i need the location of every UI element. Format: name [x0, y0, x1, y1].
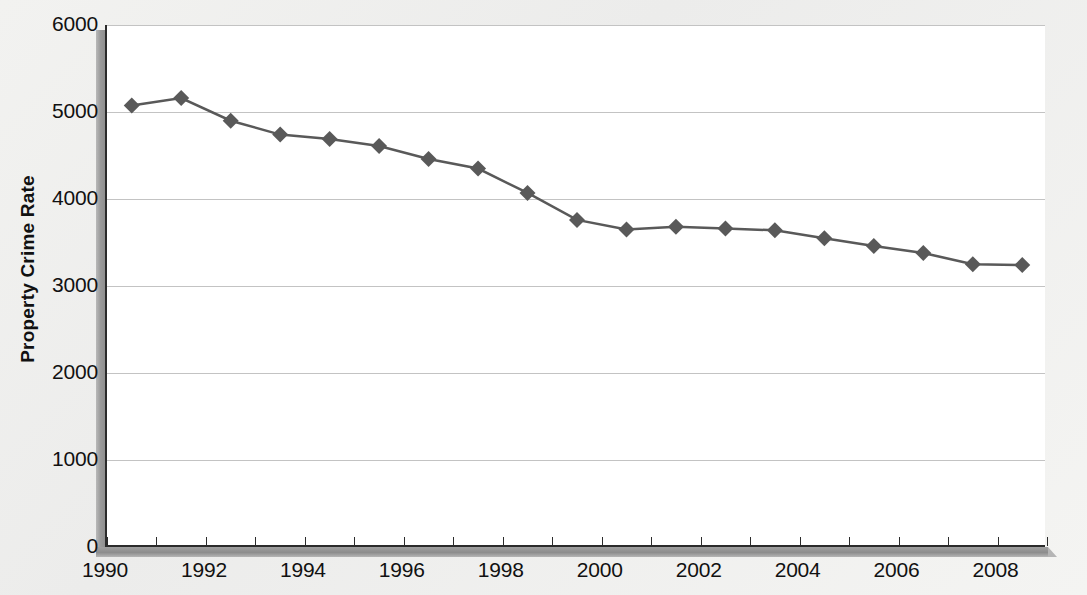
- data-point-marker: [767, 222, 783, 238]
- data-point-marker: [421, 151, 437, 167]
- x-axis-tick-label: 2000: [577, 558, 623, 582]
- series-line-chart: [107, 25, 1047, 547]
- y-axis-tick-label: 0: [24, 534, 98, 558]
- x-axis-tick-labels: 1990199219941996199820002002200420062008: [105, 558, 1045, 592]
- data-point-marker: [569, 212, 585, 228]
- y-axis-title: Property Crime Rate: [17, 159, 39, 379]
- plot-area: [105, 25, 1045, 547]
- data-point-marker: [668, 219, 684, 235]
- data-point-marker: [322, 131, 338, 147]
- data-point-marker: [470, 161, 486, 177]
- data-point-marker: [173, 90, 189, 106]
- x-axis-tick-label: 2008: [973, 558, 1019, 582]
- data-point-marker: [272, 127, 288, 143]
- data-point-marker: [816, 230, 832, 246]
- data-point-marker: [965, 256, 981, 272]
- y-axis-tick-label: 6000: [24, 12, 98, 36]
- x-axis-tick-label: 1998: [478, 558, 524, 582]
- data-point-marker: [717, 221, 733, 237]
- x-axis-tick-label: 2006: [874, 558, 920, 582]
- x-axis-tick: [1047, 537, 1048, 546]
- x-axis-tick-label: 2002: [676, 558, 722, 582]
- x-axis-tick-label: 1994: [280, 558, 326, 582]
- y-axis-tick-label: 1000: [24, 447, 98, 471]
- y-axis-tick-label: 5000: [24, 99, 98, 123]
- x-axis-tick-label: 1992: [181, 558, 227, 582]
- series-markers: [124, 90, 1031, 273]
- axis-3d-shadow-bottom: [96, 547, 1048, 557]
- data-point-marker: [124, 97, 140, 113]
- series-line: [132, 98, 1023, 265]
- data-point-marker: [915, 245, 931, 261]
- data-point-marker: [1014, 257, 1030, 273]
- data-point-marker: [371, 138, 387, 154]
- data-point-marker: [520, 185, 536, 201]
- data-point-marker: [618, 221, 634, 237]
- x-axis-tick-label: 2004: [775, 558, 821, 582]
- chart-page: 0100020003000400050006000 Property Crime…: [0, 0, 1087, 595]
- data-point-marker: [223, 113, 239, 129]
- data-point-marker: [866, 238, 882, 254]
- x-axis-tick-label: 1996: [379, 558, 425, 582]
- x-axis-tick-label: 1990: [82, 558, 128, 582]
